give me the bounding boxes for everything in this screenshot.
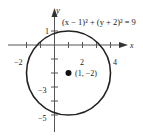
tick-label-y-1: 1 [45,27,49,36]
y-axis-label: y [55,5,60,15]
center-label: (1, −2) [75,69,97,78]
tick-label-y-neg5: −5 [38,114,47,123]
circle-graph: y x (x − 1)² + (y + 2)² = 9 1 −2 2 4 (1,… [0,0,143,140]
center-point [66,70,72,76]
equation-label: (x − 1)² + (y + 2)² = 9 [62,17,136,27]
x-axis [8,42,128,48]
tick-label-x-2: 2 [80,58,84,67]
tick-label-x-4: 4 [113,58,117,67]
tick-label-x-neg2: −2 [14,58,23,67]
x-axis-arrow-icon [119,42,128,48]
tick-label-y-neg3: −3 [38,86,47,95]
x-axis-label: x [129,41,134,50]
